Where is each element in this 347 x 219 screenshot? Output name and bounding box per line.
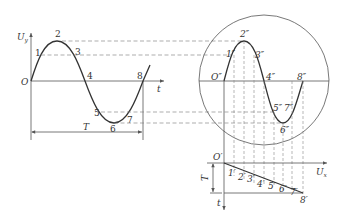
- screen-point-2-label: 2″: [239, 29, 250, 39]
- screen-point-6-label: 6″: [280, 125, 290, 135]
- point-2-label: 2: [55, 29, 61, 39]
- t-axis-label: t: [157, 84, 161, 94]
- screen-origin-label: O″: [211, 72, 222, 82]
- ux-label: Ux: [316, 167, 328, 178]
- sweep-point-7-label: 7′: [290, 187, 298, 197]
- point-6-label: 6: [110, 124, 116, 134]
- screen-point-3-label: 3″: [255, 50, 265, 60]
- point-5-label: 5: [94, 108, 100, 118]
- screen-point-8-label: 8″: [297, 72, 307, 82]
- sweep-point-6-label: 6′: [279, 184, 287, 194]
- sweep-graph: O′ Ux t T 1′ 2′ 3′ 4′ 5′ 6′ 7′ 8′: [200, 81, 328, 210]
- sweep-point-4-label: 4′: [256, 179, 265, 189]
- uy-label: Uy: [17, 32, 29, 44]
- sweep-point-8-label: 8′: [300, 195, 308, 205]
- sweep-point-2-label: 2′: [237, 172, 246, 182]
- sweep-point-1-label: 1′: [228, 168, 236, 178]
- origin-label: O: [21, 77, 29, 87]
- point-3-label: 3: [75, 47, 81, 57]
- screen: O″ 1″ 2″ 3″ 4″ 5″ 6″ 7″ 8″: [199, 15, 329, 145]
- sine-wave: [31, 41, 150, 123]
- point-4-label: 4: [87, 71, 93, 81]
- point-8-label: 8: [137, 71, 143, 81]
- point-7-label: 7: [127, 115, 133, 125]
- oscilloscope-diagram: Uy O t T 1 2 3 4 5 6 7 8 O″ 1″ 2″ 3″ 4″ …: [0, 0, 347, 219]
- sweep-origin-label: O′: [213, 152, 222, 162]
- sweep-t-label: t: [217, 198, 221, 208]
- sweep-point-3-label: 3′: [247, 174, 255, 184]
- period-label: T: [83, 122, 90, 132]
- left-graph: Uy O t T 1 2 3 4 5 6 7 8: [17, 29, 164, 140]
- screen-point-5-label: 5″: [273, 103, 283, 113]
- point-1-label: 1: [35, 48, 41, 58]
- sweep-period-label: T: [200, 174, 210, 181]
- sweep-point-5-label: 5′: [268, 181, 276, 191]
- screen-point-4-label: 4″: [265, 72, 276, 82]
